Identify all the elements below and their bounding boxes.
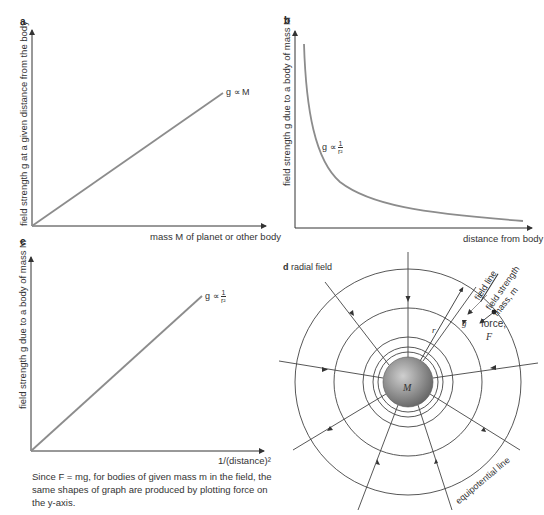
label-force: force, xyxy=(481,318,506,329)
panel-b-relation-fraction: 1r² xyxy=(338,140,343,155)
figure-caption: Since F = mg, for bodies of given mass m… xyxy=(32,470,277,509)
field-line-upper-left xyxy=(325,282,389,365)
panel-a-relation: g ∝ M xyxy=(226,87,250,97)
panel-c-relation-fraction: 1r² xyxy=(221,289,226,304)
panel-d-title: d radial field xyxy=(283,262,332,272)
field-line-lower-left xyxy=(293,394,386,450)
arrow-bottom-right xyxy=(434,459,438,464)
panel-b-x-label: distance from body xyxy=(463,233,543,244)
panel-c-num: 1 xyxy=(221,289,226,297)
panel-b-den: r² xyxy=(338,148,343,155)
arrow-upper-left xyxy=(349,310,354,316)
diagram-canvas xyxy=(0,0,544,515)
label-g: g xyxy=(462,318,467,328)
panel-b-relation-lhs: g ∝ xyxy=(322,142,336,152)
label-M: M xyxy=(403,382,411,393)
panel-b-relation: g ∝ 1r² xyxy=(322,140,343,155)
arrow-lower-right xyxy=(481,427,486,432)
label-F: F xyxy=(486,331,492,342)
label-r: r xyxy=(432,325,436,335)
panel-a-y-label: field strength g at a given distance fro… xyxy=(18,21,29,226)
panel-d-letter: d xyxy=(283,262,289,272)
field-line-right xyxy=(433,363,538,378)
arrow-top xyxy=(406,296,411,302)
panel-c-relation-lhs: g ∝ xyxy=(205,291,219,301)
panel-b-y-label: field strength g due to a body of mass M xyxy=(281,17,292,186)
panel-a-x-label: mass M of planet or other body xyxy=(150,231,281,242)
panel-d-title-text: radial field xyxy=(291,262,332,272)
arrow-bottom-left xyxy=(376,459,380,465)
arrow-left xyxy=(322,367,328,372)
panel-c-x-label: 1/(distance)² xyxy=(218,455,271,466)
field-line-lower-right xyxy=(430,394,520,450)
panel-c-graph xyxy=(31,257,264,451)
panel-b-num: 1 xyxy=(338,140,343,148)
c-line xyxy=(31,296,202,451)
a-line xyxy=(32,93,223,226)
panel-c-y-label: field strength g due to a body of mass M xyxy=(17,240,28,409)
panel-b-graph xyxy=(295,31,532,228)
b-curve xyxy=(304,44,523,221)
panel-a-graph xyxy=(32,30,266,226)
field-line-upper-right xyxy=(423,287,476,361)
panel-c-den: r² xyxy=(221,297,226,304)
panel-c-relation: g ∝ 1r² xyxy=(205,289,226,304)
